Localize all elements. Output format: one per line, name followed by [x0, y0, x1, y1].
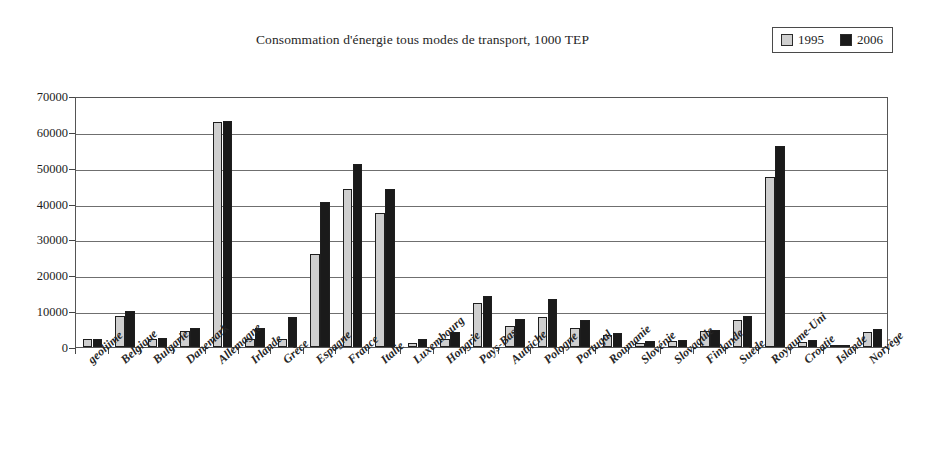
bar-1995-Allemagne [213, 122, 223, 347]
gridline [76, 134, 887, 135]
bar-2006-Espagne [320, 202, 330, 347]
bar-2006-Allemagne [223, 121, 233, 347]
chart-figure: Consommation d'énergie tous modes de tra… [0, 0, 929, 459]
legend-item-1995: 1995 [781, 32, 824, 48]
bar-1995-Espagne [310, 254, 320, 347]
bar-1995-Luxembourg [408, 343, 418, 347]
plot-inner [76, 98, 887, 347]
legend-label-2006: 2006 [857, 32, 883, 48]
chart-title: Consommation d'énergie tous modes de tra… [256, 32, 696, 48]
bar-1995-geoliime [83, 339, 93, 347]
legend-swatch-1995 [781, 34, 793, 46]
bar-1995-France [343, 189, 353, 347]
bar-2006-Pays-Bas [483, 296, 493, 347]
bar-1995-Italie [375, 213, 385, 347]
plot-area [75, 97, 888, 348]
legend-item-2006: 2006 [840, 32, 883, 48]
y-axis-ticks [0, 97, 80, 348]
bar-2006-Royaume-Uni [775, 146, 785, 347]
legend-label-1995: 1995 [798, 32, 824, 48]
bar-2006-France [353, 164, 363, 347]
bar-2006-Italie [385, 189, 395, 347]
chart-legend: 1995 2006 [772, 27, 893, 53]
bar-1995-Royaume-Uni [765, 177, 775, 347]
gridline [76, 170, 887, 171]
legend-swatch-2006 [840, 34, 852, 46]
bar-2006-Pologne [548, 299, 558, 347]
x-tick-mark [75, 348, 76, 354]
x-axis-labels: geoliimeBelgiqueBulgarieDanemarkAllemagn… [75, 356, 929, 456]
